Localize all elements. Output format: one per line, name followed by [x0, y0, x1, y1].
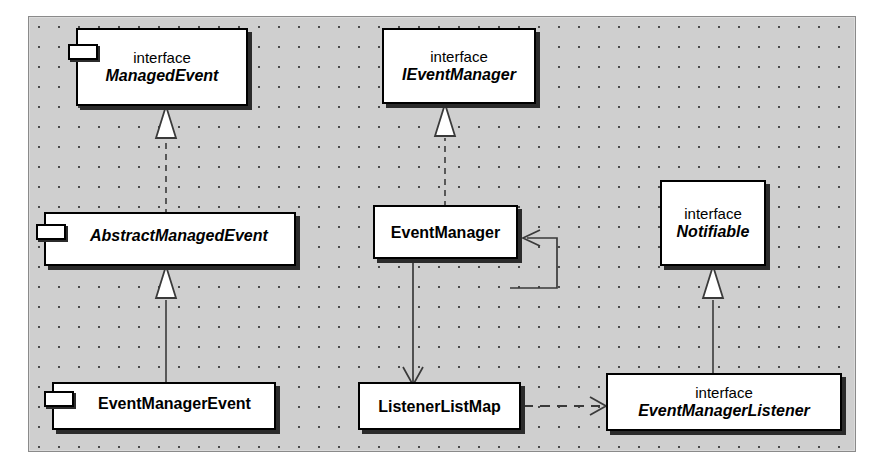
component-tab-icon	[68, 44, 98, 60]
node-name: ManagedEvent	[106, 66, 219, 85]
node-name: EventManagerEvent	[98, 394, 251, 413]
node-ievent-manager[interactable]: interface IEventManager	[382, 28, 536, 104]
node-name: AbstractManagedEvent	[90, 226, 268, 245]
node-name: IEventManager	[402, 65, 516, 84]
node-listener-list-map[interactable]: ListenerListMap	[358, 382, 521, 430]
stereotype-label: interface	[133, 49, 191, 66]
node-abstract-managed-event[interactable]: AbstractManagedEvent	[44, 212, 296, 266]
stereotype-label: interface	[684, 205, 742, 222]
node-event-manager[interactable]: EventManager	[373, 205, 518, 259]
node-managed-event[interactable]: interface ManagedEvent	[76, 28, 248, 106]
node-event-manager-event[interactable]: EventManagerEvent	[52, 382, 276, 430]
node-name: EventManager	[391, 223, 500, 242]
node-name: Notifiable	[677, 222, 750, 241]
stereotype-label: interface	[430, 48, 488, 65]
node-name: EventManagerListener	[638, 401, 810, 420]
node-event-manager-listener[interactable]: interface EventManagerListener	[606, 373, 842, 431]
uml-diagram-root: ListenerListMap (solid + open arrow) -->…	[0, 0, 882, 468]
node-notifiable[interactable]: interface Notifiable	[660, 180, 766, 266]
stereotype-label: interface	[695, 384, 753, 401]
component-tab-icon	[44, 391, 74, 407]
node-name: ListenerListMap	[378, 397, 501, 416]
component-tab-icon	[36, 224, 66, 240]
